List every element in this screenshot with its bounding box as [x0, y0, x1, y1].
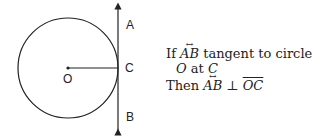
- text-if: If: [166, 46, 180, 61]
- label-A: A: [126, 18, 134, 32]
- line-AB-notation: AB: [203, 77, 222, 94]
- text-then: Then: [166, 78, 203, 93]
- label-C: C: [125, 61, 134, 75]
- label-B: B: [126, 110, 134, 124]
- tangent-diagram: A C O B: [0, 0, 322, 137]
- text-O: O: [176, 61, 187, 76]
- text-tangent: tangent to circle: [199, 46, 312, 61]
- center-point-O: [66, 66, 69, 69]
- statement-line-3: Then AB ⊥ OC: [166, 77, 263, 94]
- perpendicular-symbol: ⊥: [222, 78, 243, 93]
- segment-OC-notation: OC: [243, 78, 264, 93]
- label-O: O: [63, 72, 72, 86]
